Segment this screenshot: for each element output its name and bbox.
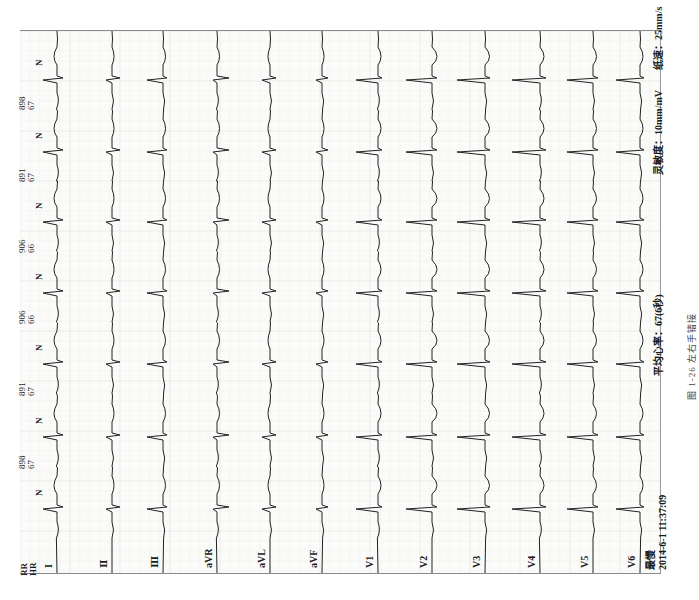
- lead-label-i: I: [43, 564, 54, 568]
- figure-caption: 图 1-26 左右手错接: [685, 313, 698, 400]
- lead-label-avl: aVL: [256, 549, 267, 568]
- lead-label-ⅲ: Ⅲ: [149, 556, 160, 568]
- beat-annotation-n: N: [34, 203, 44, 210]
- filter-label: 最慢: [642, 495, 657, 570]
- timestamp: 2014-6-1 11:37:09: [657, 495, 668, 570]
- paper-speed: 纸速：25mm/s: [650, 7, 665, 70]
- beat-annotation-n: N: [34, 133, 44, 140]
- hr-value: 67: [27, 456, 36, 470]
- ecg-waveforms: [20, 31, 660, 573]
- lead-label-v2: V2: [418, 556, 429, 568]
- beat-annotation-n: N: [34, 274, 44, 281]
- hr-value: 66: [27, 240, 36, 254]
- beat-annotation-n: N: [34, 60, 44, 67]
- footer-info: 最慢 2014-6-1 11:37:09: [642, 495, 668, 570]
- lead-label-ⅱ: Ⅱ: [98, 560, 109, 568]
- hr-value: 67: [27, 169, 36, 183]
- rr-hr-value: 89867: [18, 456, 36, 470]
- lead-label-v5: V5: [579, 556, 590, 568]
- hr-label: HR: [29, 563, 38, 577]
- lead-label-v4: V4: [526, 556, 537, 568]
- rr-hr-value: 90666: [18, 311, 36, 325]
- rr-hr-value: 89167: [18, 383, 36, 397]
- beat-annotation-n: N: [34, 345, 44, 352]
- hr-value: 67: [27, 383, 36, 397]
- beat-annotation-n: N: [34, 490, 44, 497]
- lead-label-avr: aVR: [203, 549, 214, 568]
- beat-annotation-n: N: [34, 418, 44, 425]
- rr-hr-value: 89167: [18, 169, 36, 183]
- sensitivity: 灵敏度：10mm/mV: [650, 90, 665, 175]
- rr-hr-value: 90666: [18, 240, 36, 254]
- rr-hr-header: RR HR: [20, 563, 38, 577]
- hr-value: 67: [27, 97, 36, 111]
- avg-heart-rate: 平均心率：67(6秒): [650, 294, 665, 376]
- lead-label-v6: V6: [626, 556, 637, 568]
- rr-hr-value: 89867: [18, 97, 36, 111]
- ecg-strip: [20, 30, 661, 574]
- lead-label-v3: V3: [471, 556, 482, 568]
- hr-value: 66: [27, 311, 36, 325]
- lead-label-v1: V1: [364, 556, 375, 568]
- lead-label-avf: aVF: [308, 550, 319, 568]
